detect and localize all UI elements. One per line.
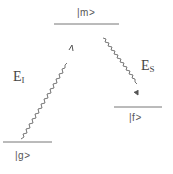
excitation-energy-label: EI xyxy=(13,70,25,85)
level-f-label: |f> xyxy=(129,113,142,123)
energy-level-diagram: |m> |g> |f> EI ES xyxy=(0,0,173,174)
emission-energy-label: ES xyxy=(141,59,155,74)
excitation-arrow xyxy=(21,45,73,139)
emission-arrow xyxy=(103,38,138,95)
level-m-label: |m> xyxy=(77,8,95,18)
arrowhead-up-icon xyxy=(69,45,73,51)
diagram-canvas xyxy=(0,0,173,174)
level-g-label: |g> xyxy=(15,151,31,161)
emission-energy-main: E xyxy=(141,58,150,73)
emission-energy-sub: S xyxy=(150,64,155,74)
arrowhead-down-icon xyxy=(134,90,138,95)
excitation-energy-sub: I xyxy=(22,75,25,85)
excitation-energy-main: E xyxy=(13,69,22,84)
